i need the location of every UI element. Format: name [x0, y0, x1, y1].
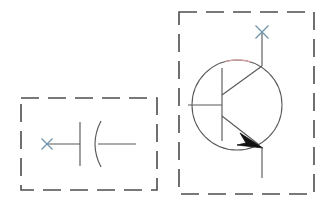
symbol-group-transistor[interactable] [179, 12, 314, 194]
selection-bounding-box-transistor[interactable] [179, 12, 314, 194]
symbol-group-capacitor[interactable] [21, 98, 157, 190]
transistor-collector-slope[interactable] [222, 66, 262, 95]
schematic-drawing-surface[interactable] [0, 0, 326, 206]
transistor-emitter-arrow-icon[interactable] [237, 133, 263, 148]
transistor-emitter-slope[interactable] [222, 116, 258, 144]
schematic-canvas[interactable]: Polarized capacitor symbol with unconnec… [0, 0, 326, 206]
selection-bounding-box-capacitor[interactable] [21, 98, 157, 190]
